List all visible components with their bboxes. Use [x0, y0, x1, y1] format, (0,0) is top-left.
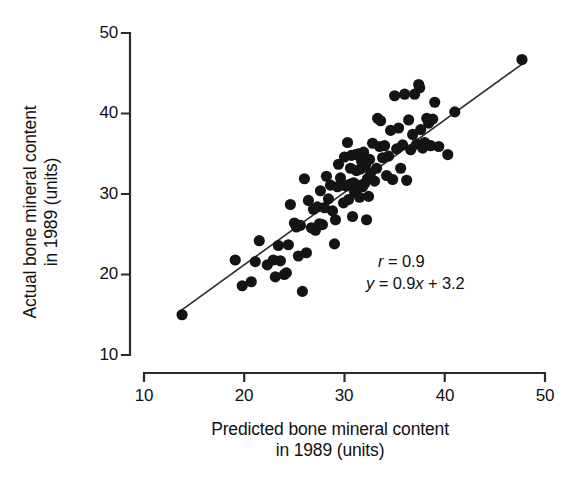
data-point [330, 214, 341, 225]
data-point [399, 89, 410, 100]
data-point [281, 267, 292, 278]
data-point [301, 247, 312, 258]
data-point [177, 309, 188, 320]
x-tick-label-30: 30 [324, 386, 364, 406]
data-point [379, 140, 390, 151]
y-axis [122, 33, 130, 355]
data-point [283, 239, 294, 250]
plot-canvas [0, 0, 585, 487]
data-point [323, 193, 334, 204]
data-point [364, 154, 375, 165]
y-tick-label-10: 10 [78, 345, 118, 365]
data-point [246, 276, 257, 287]
data-point [329, 238, 340, 249]
data-point [393, 122, 404, 133]
y-tick-label-30: 30 [78, 184, 118, 204]
data-point [363, 191, 374, 202]
data-point [403, 114, 414, 125]
data-point [361, 214, 372, 225]
x-tick-label-40: 40 [425, 386, 465, 406]
x-tick-label-50: 50 [525, 386, 565, 406]
data-point [317, 219, 328, 230]
data-point [449, 106, 460, 117]
data-point [230, 254, 241, 265]
data-point [347, 211, 358, 222]
x-axis [144, 373, 545, 381]
data-point [273, 240, 284, 251]
data-point [369, 176, 380, 187]
data-point [375, 115, 386, 126]
data-point [297, 286, 308, 297]
data-point [516, 54, 527, 65]
data-point [401, 175, 412, 186]
data-point [295, 220, 306, 231]
data-point [427, 114, 438, 125]
data-point [433, 141, 444, 152]
y-tick-label-50: 50 [78, 23, 118, 43]
data-point [315, 185, 326, 196]
x-tick-label-20: 20 [224, 386, 264, 406]
data-point [395, 163, 406, 174]
data-point [429, 97, 440, 108]
data-point [275, 255, 286, 266]
data-point [414, 82, 425, 93]
data-point [299, 173, 310, 184]
data-point [389, 90, 400, 101]
data-point [342, 137, 353, 148]
data-point [387, 174, 398, 185]
data-point [250, 256, 261, 267]
data-point [371, 163, 382, 174]
data-point [442, 149, 453, 160]
x-tick-label-10: 10 [124, 386, 164, 406]
data-point [285, 199, 296, 210]
y-tick-label-20: 20 [78, 264, 118, 284]
data-points-group [177, 54, 528, 320]
data-point [254, 235, 265, 246]
scatter-plot-figure: Actual bone mineral content in 1989 (uni… [0, 0, 585, 487]
y-tick-label-40: 40 [78, 103, 118, 123]
